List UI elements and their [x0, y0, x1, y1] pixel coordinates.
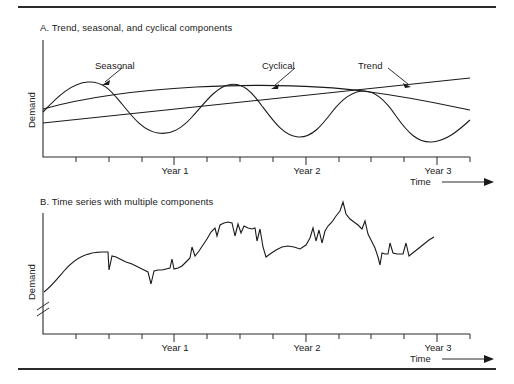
- panel-b-plot-area: [0, 0, 514, 384]
- panel-b-time-arrow: [442, 355, 494, 363]
- panel-a-y-axis-title: Demand: [26, 92, 37, 128]
- bottom-divider-rule: [18, 368, 496, 370]
- panel-a-curve-seasonal: [43, 82, 470, 142]
- panel-a-annotation-leaders: [102, 68, 411, 89]
- panel-a-xtick-year-3: Year 3: [411, 165, 465, 176]
- panel-a-annotation-seasonal: Seasonal: [95, 60, 135, 71]
- panel-a-curve-cyclical: [43, 85, 470, 110]
- panel-a-time-arrow: [442, 178, 494, 186]
- panel-a-annotation-cyclical: Cyclical: [262, 60, 295, 71]
- panel-b-x-ticks: [76, 334, 470, 342]
- panel-b-curve-observed: [44, 202, 434, 292]
- panel-b-y-axis-break-icon: [37, 302, 49, 316]
- panel-b-xtick-year-1: Year 1: [148, 342, 202, 353]
- panel-a-x-ticks: [76, 157, 470, 165]
- panel-a-x-axis-title: Time: [410, 176, 431, 187]
- panel-a-xtick-year-2: Year 2: [280, 165, 334, 176]
- panel-b-x-axis-title: Time: [410, 353, 431, 364]
- top-divider-rule: [18, 6, 496, 8]
- figure-container: A. Trend, seasonal, and cyclical compone…: [0, 0, 514, 384]
- panel-a-plot-area: [0, 0, 514, 384]
- panel-b-axes: [43, 213, 470, 334]
- panel-b-caption: B. Time series with multiple components: [40, 196, 213, 207]
- panel-b-y-axis-title: Demand: [26, 264, 37, 300]
- panel-a-xtick-year-1: Year 1: [148, 165, 202, 176]
- panel-a-annotation-trend: Trend: [358, 60, 382, 71]
- panel-a-curve-trend: [43, 78, 470, 123]
- panel-a-caption: A. Trend, seasonal, and cyclical compone…: [40, 22, 232, 33]
- panel-b-xtick-year-2: Year 2: [280, 342, 334, 353]
- panel-a-axes: [43, 40, 470, 157]
- panel-b-xtick-year-3: Year 3: [411, 342, 465, 353]
